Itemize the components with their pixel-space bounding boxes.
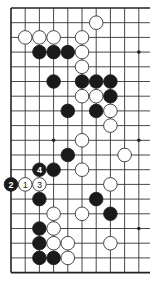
white-stone — [104, 104, 118, 118]
black-stone-disc — [33, 222, 47, 236]
black-stone-disc — [33, 45, 47, 59]
black-stone-disc — [33, 236, 47, 250]
black-stone — [75, 75, 89, 89]
black-stone-disc — [61, 45, 75, 59]
white-stone-disc — [104, 178, 118, 192]
white-stone-disc — [47, 31, 61, 45]
white-stone — [104, 119, 118, 133]
black-stone — [61, 148, 75, 162]
black-stone-disc — [104, 207, 118, 221]
white-stone — [61, 236, 75, 250]
white-stone-disc — [47, 222, 61, 236]
white-stone-move-3: 3 — [33, 178, 47, 192]
white-stone-disc — [118, 148, 132, 162]
black-stone-disc — [61, 104, 75, 118]
white-stone — [75, 45, 89, 59]
white-stone-disc — [75, 163, 89, 177]
black-stone — [89, 104, 103, 118]
black-stone-disc — [47, 251, 61, 265]
move-number-label: 2 — [8, 180, 13, 190]
star-point — [52, 139, 56, 143]
black-stone-disc — [89, 192, 103, 206]
white-stone-disc — [104, 119, 118, 133]
black-stone-disc — [47, 45, 61, 59]
white-stone — [47, 31, 61, 45]
black-stone — [33, 45, 47, 59]
white-stone — [75, 31, 89, 45]
black-stone-disc — [33, 192, 47, 206]
white-stone — [104, 178, 118, 192]
star-point — [137, 139, 141, 143]
black-stone-disc — [47, 75, 61, 89]
black-stone-disc — [104, 75, 118, 89]
white-stone-disc — [61, 251, 75, 265]
black-stone — [89, 192, 103, 206]
black-stone-disc — [47, 163, 61, 177]
black-stone-disc — [104, 89, 118, 103]
white-stone-disc — [104, 236, 118, 250]
white-stone-disc — [75, 60, 89, 74]
black-stone-disc — [89, 104, 103, 118]
black-stone — [104, 207, 118, 221]
black-stone — [47, 75, 61, 89]
black-stone — [33, 222, 47, 236]
black-stone-disc — [89, 75, 103, 89]
white-stone — [47, 236, 61, 250]
white-stone — [47, 222, 61, 236]
white-stone-disc — [75, 89, 89, 103]
white-stone-move-1: 1 — [18, 178, 32, 192]
black-stone — [33, 192, 47, 206]
black-stone — [33, 236, 47, 250]
white-stone-disc — [75, 31, 89, 45]
white-stone-disc — [33, 31, 47, 45]
white-stone-disc — [61, 236, 75, 250]
white-stone-disc — [18, 31, 32, 45]
black-stone — [89, 75, 103, 89]
white-stone — [89, 16, 103, 30]
black-stone-move-4: 4 — [33, 163, 47, 177]
white-stone-disc — [75, 207, 89, 221]
white-stone-disc — [47, 207, 61, 221]
white-stone — [61, 251, 75, 265]
white-stone-disc — [89, 16, 103, 30]
go-board-diagram: 4213 — [0, 0, 158, 285]
move-number-label: 1 — [23, 180, 28, 190]
white-stone — [18, 31, 32, 45]
white-stone — [75, 207, 89, 221]
white-stone-disc — [75, 45, 89, 59]
star-point — [137, 227, 141, 231]
white-stone — [75, 60, 89, 74]
white-stone — [75, 134, 89, 148]
black-stone — [47, 45, 61, 59]
white-stone — [104, 236, 118, 250]
black-stone-disc — [33, 251, 47, 265]
white-stone — [33, 31, 47, 45]
black-stone — [61, 104, 75, 118]
move-number-label: 3 — [37, 180, 42, 190]
move-number-label: 4 — [37, 165, 42, 175]
white-stone — [118, 148, 132, 162]
star-point — [137, 50, 141, 54]
white-stone-disc — [89, 89, 103, 103]
black-stone — [47, 163, 61, 177]
black-stone-disc — [75, 75, 89, 89]
black-stone — [104, 89, 118, 103]
black-stone — [61, 45, 75, 59]
black-stone-disc — [61, 148, 75, 162]
white-stone — [47, 207, 61, 221]
white-stone — [75, 163, 89, 177]
black-stone — [33, 251, 47, 265]
white-stone — [89, 89, 103, 103]
black-stone — [104, 75, 118, 89]
white-stone-disc — [75, 134, 89, 148]
white-stone-disc — [104, 104, 118, 118]
white-stone-disc — [47, 236, 61, 250]
black-stone — [47, 251, 61, 265]
black-stone-move-2: 2 — [4, 178, 18, 192]
white-stone — [75, 89, 89, 103]
